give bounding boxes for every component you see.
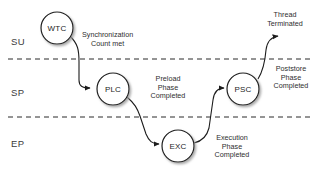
lane-label-ep: EP: [11, 138, 24, 149]
terminal-label-line: Terminated: [256, 20, 314, 29]
node-label-wtc: WTC: [41, 24, 73, 33]
transition-label-wtc-to-plc: Synchronization Count met: [82, 31, 133, 48]
transition-label-psc-to-terminated: Poststore Phase Completed: [262, 65, 317, 91]
transition-label-line: Completed: [262, 82, 317, 91]
transition-plc-to-exc: [127, 97, 159, 144]
transition-label-plc-to-exc: Preload Phase Completed: [139, 75, 197, 101]
node-label-plc: PLC: [97, 85, 129, 94]
transition-label-exc-to-psc: Execution Phase Completed: [203, 134, 261, 160]
lane-label-sp: SP: [11, 87, 24, 98]
terminal-label-thread-terminated: Thread Terminated: [256, 11, 314, 28]
transition-label-line: Completed: [139, 92, 197, 101]
lane-label-su: SU: [11, 36, 25, 47]
node-label-exc: EXC: [162, 142, 194, 151]
node-label-psc: PSC: [227, 85, 259, 94]
transition-label-line: Completed: [203, 151, 261, 160]
thread-lifecycle-diagram: SU SP EP WTC PLC EXC PSC Synchronization…: [0, 0, 317, 180]
transition-label-line: Count met: [82, 40, 133, 49]
